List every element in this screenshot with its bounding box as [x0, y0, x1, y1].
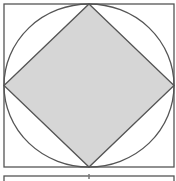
geometry-figure [0, 0, 176, 181]
